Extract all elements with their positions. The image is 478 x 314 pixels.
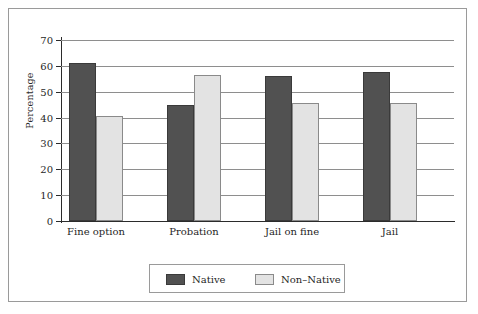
x-axis-tick-label: Probation	[147, 226, 241, 237]
figure-border: Percentage 010203040506070 Fine optionPr…	[8, 8, 467, 302]
bar-native	[265, 76, 292, 221]
bar-native	[69, 63, 96, 221]
x-axis-tick-label: Jail on fine	[245, 226, 339, 237]
y-axis-tick-mark	[56, 92, 61, 93]
bar-native	[363, 72, 390, 221]
bar-nonnative	[390, 103, 417, 221]
gridline	[61, 66, 454, 67]
y-axis-tick-label: 10	[40, 190, 53, 201]
plot-area: 010203040506070	[61, 40, 454, 221]
y-axis-title: Percentage	[24, 61, 35, 141]
x-axis-tick-label: Jail	[343, 226, 437, 237]
gridline	[61, 92, 454, 93]
legend-item-nonnative[interactable]: Non–Native	[255, 272, 341, 286]
y-axis-tick-label: 30	[40, 138, 53, 149]
y-axis-tick-mark	[56, 118, 61, 119]
x-axis-line	[61, 221, 455, 222]
y-axis-tick-mark	[56, 40, 61, 41]
bar-native	[167, 105, 194, 221]
y-axis-tick-mark	[56, 143, 61, 144]
y-axis-tick-label: 70	[40, 35, 53, 46]
bar-nonnative	[194, 75, 221, 221]
legend-swatch-icon	[255, 274, 274, 285]
legend-label: Native	[192, 274, 226, 285]
y-axis-tick-label: 0	[47, 216, 53, 227]
y-axis-tick-mark	[56, 66, 61, 67]
legend-item-native[interactable]: Native	[166, 272, 226, 286]
gridline	[61, 40, 454, 41]
bar-nonnative	[292, 103, 319, 221]
figure: Percentage 010203040506070 Fine optionPr…	[0, 0, 478, 314]
bar-nonnative	[96, 116, 123, 221]
y-axis-tick-label: 60	[40, 60, 53, 71]
y-axis-tick-label: 40	[40, 112, 53, 123]
y-axis-tick-label: 50	[40, 86, 53, 97]
legend-swatch-icon	[166, 274, 185, 285]
y-axis-tick-mark	[56, 221, 61, 222]
y-axis-tick-mark	[56, 195, 61, 196]
y-axis-tick-label: 20	[40, 164, 53, 175]
legend: NativeNon–Native	[149, 264, 345, 293]
legend-label: Non–Native	[281, 274, 341, 285]
x-axis-tick-label: Fine option	[49, 226, 143, 237]
y-axis-tick-mark	[56, 169, 61, 170]
